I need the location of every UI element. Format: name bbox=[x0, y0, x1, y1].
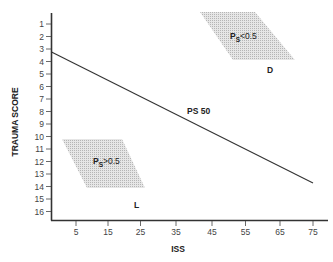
svg-text:2: 2 bbox=[39, 32, 44, 42]
svg-text:15: 15 bbox=[35, 194, 45, 204]
svg-text:5: 5 bbox=[74, 227, 79, 237]
svg-text:1: 1 bbox=[39, 19, 44, 29]
svg-text:45: 45 bbox=[207, 227, 217, 237]
ps50-chart: 1 2 3 4 5 6 7 8 9 10 11 12 13 14 15 16 5… bbox=[0, 0, 333, 262]
svg-text:35: 35 bbox=[171, 227, 181, 237]
svg-text:16: 16 bbox=[35, 207, 45, 217]
svg-text:8: 8 bbox=[39, 107, 44, 117]
svg-text:12: 12 bbox=[35, 157, 45, 167]
x-tick-labels: 5 15 25 35 45 55 65 75 bbox=[74, 227, 318, 237]
svg-text:14: 14 bbox=[35, 182, 45, 192]
x-axis-title: ISS bbox=[171, 244, 185, 254]
svg-text:7: 7 bbox=[39, 94, 44, 104]
survival-prob-label: PS>0.5 bbox=[93, 156, 120, 168]
svg-text:10: 10 bbox=[35, 132, 45, 142]
ps50-label: PS 50 bbox=[187, 106, 210, 116]
svg-text:25: 25 bbox=[136, 227, 146, 237]
svg-text:9: 9 bbox=[39, 119, 44, 129]
x-ticks bbox=[76, 221, 313, 226]
svg-text:15: 15 bbox=[103, 227, 113, 237]
svg-text:4: 4 bbox=[39, 57, 44, 67]
death-outcome-label: D bbox=[267, 65, 273, 75]
svg-text:65: 65 bbox=[275, 227, 285, 237]
svg-text:11: 11 bbox=[35, 144, 44, 154]
svg-text:55: 55 bbox=[241, 227, 251, 237]
svg-text:5: 5 bbox=[39, 69, 44, 79]
svg-text:3: 3 bbox=[39, 44, 44, 54]
death-prob-label: PS<0.5 bbox=[230, 31, 257, 43]
y-tick-labels: 1 2 3 4 5 6 7 8 9 10 11 12 13 14 15 16 bbox=[35, 19, 45, 217]
survival-outcome-label: L bbox=[134, 200, 139, 210]
svg-text:75: 75 bbox=[308, 227, 318, 237]
svg-text:13: 13 bbox=[35, 169, 45, 179]
y-ticks bbox=[46, 24, 51, 212]
svg-text:6: 6 bbox=[39, 82, 44, 92]
y-axis-title: TRAUMA SCORE bbox=[10, 87, 20, 156]
